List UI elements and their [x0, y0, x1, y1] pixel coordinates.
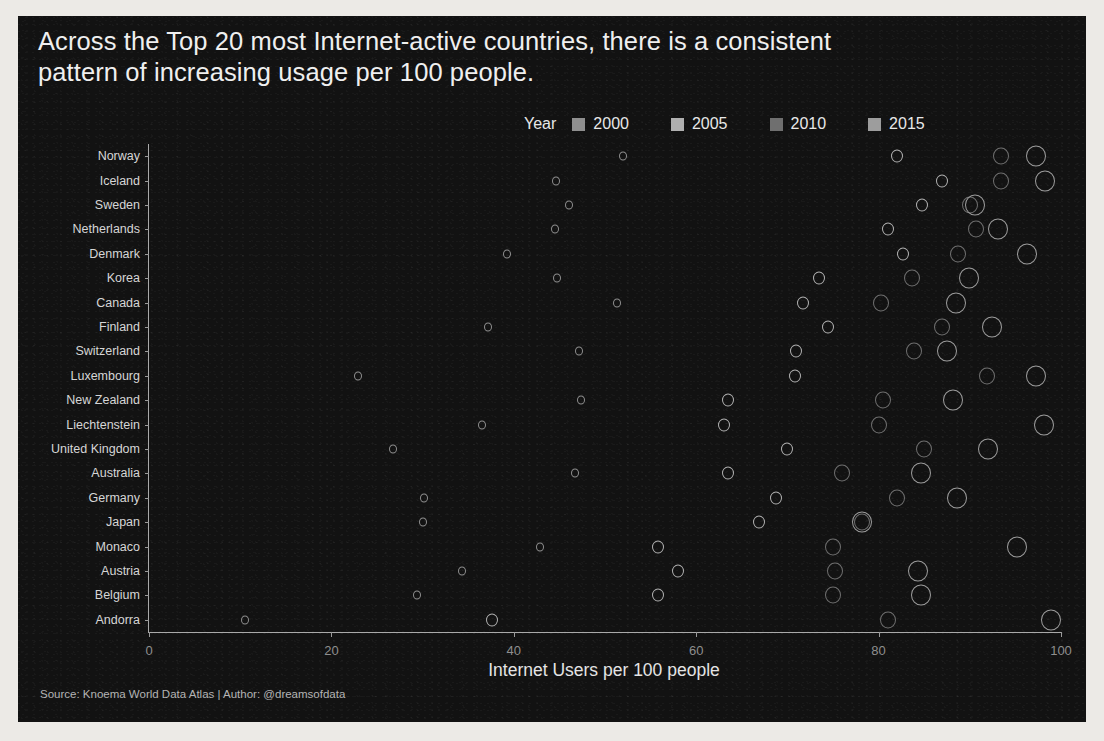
- data-point[interactable]: [790, 345, 802, 358]
- data-point[interactable]: [943, 390, 963, 411]
- data-point[interactable]: [552, 176, 560, 185]
- data-point[interactable]: [503, 249, 511, 258]
- data-point[interactable]: [934, 319, 950, 336]
- data-point[interactable]: [852, 512, 872, 533]
- data-point[interactable]: [950, 245, 966, 262]
- data-point[interactable]: [718, 418, 730, 431]
- data-point[interactable]: [825, 587, 841, 604]
- data-point[interactable]: [565, 201, 573, 210]
- data-point[interactable]: [946, 292, 966, 313]
- data-point[interactable]: [613, 298, 621, 307]
- data-point[interactable]: [908, 561, 928, 582]
- data-point[interactable]: [458, 567, 466, 576]
- data-point[interactable]: [484, 323, 492, 332]
- data-point[interactable]: [875, 392, 891, 409]
- data-point[interactable]: [652, 540, 664, 553]
- data-point[interactable]: [968, 221, 984, 238]
- data-point[interactable]: [889, 489, 905, 506]
- data-point[interactable]: [993, 148, 1009, 165]
- data-point[interactable]: [897, 247, 909, 260]
- data-point[interactable]: [965, 195, 985, 216]
- data-point[interactable]: [577, 396, 585, 405]
- data-point[interactable]: [1041, 609, 1061, 630]
- data-point[interactable]: [988, 219, 1008, 240]
- data-point[interactable]: [937, 341, 957, 362]
- data-point[interactable]: [880, 611, 896, 628]
- data-point[interactable]: [891, 150, 903, 163]
- data-point[interactable]: [553, 274, 561, 283]
- data-point[interactable]: [916, 199, 928, 212]
- data-point[interactable]: [947, 487, 967, 508]
- data-point[interactable]: [979, 367, 995, 384]
- data-point[interactable]: [871, 416, 887, 433]
- data-point[interactable]: [478, 420, 486, 429]
- data-point[interactable]: [753, 516, 765, 529]
- data-point[interactable]: [652, 589, 664, 602]
- legend-swatch-icon: [572, 118, 585, 131]
- data-point[interactable]: [911, 585, 931, 606]
- data-point[interactable]: [825, 538, 841, 555]
- data-point[interactable]: [536, 542, 544, 551]
- data-point[interactable]: [936, 174, 948, 187]
- data-point[interactable]: [722, 394, 734, 407]
- x-axis-tick-label: 40: [507, 643, 521, 658]
- y-axis-tick: [145, 522, 149, 523]
- data-point[interactable]: [822, 321, 834, 334]
- data-point[interactable]: [904, 270, 920, 287]
- y-axis-tick: [145, 254, 149, 255]
- data-point[interactable]: [413, 591, 421, 600]
- data-point[interactable]: [389, 445, 397, 454]
- data-point[interactable]: [672, 565, 684, 578]
- data-point[interactable]: [722, 467, 734, 480]
- data-point[interactable]: [959, 268, 979, 289]
- y-axis-label-belgium: Belgium: [95, 588, 140, 602]
- data-point[interactable]: [789, 369, 801, 382]
- data-point[interactable]: [781, 443, 793, 456]
- data-point[interactable]: [834, 465, 850, 482]
- legend-item-2015[interactable]: 2015: [868, 115, 925, 133]
- legend-item-2010[interactable]: 2010: [770, 115, 827, 133]
- data-point[interactable]: [1034, 414, 1054, 435]
- y-axis-tick: [145, 473, 149, 474]
- data-point[interactable]: [797, 296, 809, 309]
- data-point[interactable]: [1026, 365, 1046, 386]
- data-point[interactable]: [873, 294, 889, 311]
- y-axis-label-united-kingdom: United Kingdom: [51, 442, 140, 456]
- y-axis-tick: [145, 327, 149, 328]
- y-axis-tick: [145, 498, 149, 499]
- data-point[interactable]: [770, 491, 782, 504]
- data-point[interactable]: [1007, 536, 1027, 557]
- legend-item-label: 2005: [692, 115, 728, 133]
- data-point[interactable]: [916, 441, 932, 458]
- data-point[interactable]: [978, 439, 998, 460]
- legend-item-label: 2010: [791, 115, 827, 133]
- data-point[interactable]: [882, 223, 894, 236]
- legend-item-2005[interactable]: 2005: [671, 115, 728, 133]
- data-point[interactable]: [906, 343, 922, 360]
- y-axis-label-andorra: Andorra: [96, 613, 140, 627]
- legend-item-2000[interactable]: 2000: [572, 115, 629, 133]
- x-axis-title: Internet Users per 100 people: [148, 660, 1060, 681]
- data-point[interactable]: [813, 272, 825, 285]
- chart-screenshot: Across the Top 20 most Internet-active c…: [0, 0, 1104, 741]
- data-point[interactable]: [420, 493, 428, 502]
- data-point[interactable]: [619, 152, 627, 161]
- data-point[interactable]: [911, 463, 931, 484]
- data-point[interactable]: [419, 518, 427, 527]
- data-point[interactable]: [993, 172, 1009, 189]
- data-point[interactable]: [1017, 243, 1037, 264]
- legend-swatch-icon: [868, 118, 881, 131]
- data-point[interactable]: [575, 347, 583, 356]
- data-point[interactable]: [982, 317, 1002, 338]
- data-point[interactable]: [1035, 170, 1055, 191]
- data-point[interactable]: [571, 469, 579, 478]
- data-point[interactable]: [1026, 146, 1046, 167]
- x-axis-tick: [149, 632, 150, 637]
- data-point[interactable]: [354, 371, 362, 380]
- data-point[interactable]: [827, 563, 843, 580]
- data-point[interactable]: [486, 613, 498, 626]
- data-point[interactable]: [551, 225, 559, 234]
- data-point[interactable]: [241, 615, 249, 624]
- y-axis-tick: [145, 351, 149, 352]
- y-axis-label-liechtenstein: Liechtenstein: [66, 418, 140, 432]
